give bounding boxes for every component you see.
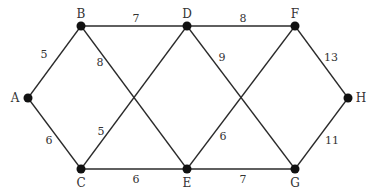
- node-a: [24, 94, 33, 103]
- weight-c-e: 6: [133, 173, 140, 186]
- node-c: [77, 165, 86, 174]
- weight-c-d: 5: [98, 125, 105, 138]
- weight-g-h: 11: [325, 134, 339, 147]
- label-d: D: [182, 7, 192, 21]
- node-labels: A B C D E F G H: [10, 7, 367, 190]
- weight-b-d: 7: [133, 12, 140, 25]
- edge-a-c: [28, 98, 81, 169]
- node-h: [344, 94, 353, 103]
- weight-e-g: 7: [240, 173, 247, 186]
- label-g: G: [290, 176, 300, 190]
- edge-f-h: [295, 26, 348, 98]
- weight-a-c: 6: [46, 134, 53, 147]
- node-b: [77, 22, 86, 31]
- edge-g-h: [295, 98, 348, 169]
- node-e: [183, 165, 192, 174]
- graph-diagram: 5 6 7 8 5 6 8 9 6 7 13 11 A B C D E F G …: [0, 0, 374, 196]
- edge-a-b: [28, 26, 81, 98]
- edge-weights: 5 6 7 8 5 6 8 9 6 7 13 11: [41, 12, 340, 186]
- weight-b-e: 8: [97, 56, 104, 69]
- weight-d-g: 9: [219, 51, 226, 64]
- weight-a-b: 5: [41, 48, 48, 61]
- label-a: A: [10, 91, 20, 105]
- weight-f-h: 13: [324, 51, 338, 64]
- node-d: [183, 22, 192, 31]
- edges: [28, 26, 348, 169]
- nodes: [24, 22, 353, 174]
- weight-e-f: 6: [220, 130, 227, 143]
- label-c: C: [76, 176, 85, 190]
- label-b: B: [77, 7, 86, 21]
- node-g: [291, 165, 300, 174]
- weight-d-f: 8: [240, 12, 247, 25]
- label-h: H: [356, 91, 366, 105]
- label-e: E: [183, 176, 192, 190]
- node-f: [291, 22, 300, 31]
- label-f: F: [291, 7, 299, 21]
